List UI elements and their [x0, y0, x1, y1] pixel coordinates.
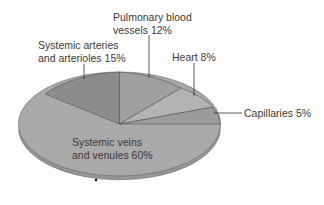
label-pulmonary: Pulmonary blood vessels 12% — [113, 11, 192, 37]
label-veins-line1: Systemic veins — [72, 136, 153, 149]
label-arteries-line1: Systemic arteries — [38, 39, 126, 52]
label-veins-line2: and venules 60% — [72, 149, 153, 162]
label-arteries-line2: and arterioles 15% — [38, 52, 126, 65]
label-arteries: Systemic arteries and arterioles 15% — [38, 39, 126, 65]
label-heart: Heart 8% — [172, 51, 216, 64]
label-pulmonary-line1: Pulmonary blood — [113, 11, 192, 24]
dot-mark — [95, 179, 98, 182]
label-capillaries: Capillaries 5% — [244, 107, 311, 120]
label-veins: Systemic veins and venules 60% — [72, 136, 153, 162]
label-pulmonary-line2: vessels 12% — [113, 24, 192, 37]
